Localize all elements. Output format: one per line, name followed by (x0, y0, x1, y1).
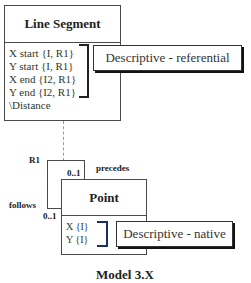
attribute: \Distance (9, 99, 76, 112)
figure-caption: Model 3.X (96, 267, 154, 283)
class-title: Point (62, 180, 146, 216)
class-title: Line Segment (5, 6, 120, 43)
attribute-bracket (79, 44, 89, 98)
attribute: X end {I2, R1} (9, 73, 76, 86)
association-class-link (63, 121, 64, 161)
verb-phrase-precedes: precedes (96, 163, 129, 173)
note-descriptive-native: Descriptive - native (116, 221, 233, 247)
multiplicity-label: 0..1 (43, 211, 57, 221)
relationship-id: R1 (29, 155, 40, 165)
attribute: Y start {I, R1} (9, 60, 76, 73)
note-descriptive-referential: Descriptive - referential (93, 45, 242, 71)
attribute: Y end {I2, R1} (9, 86, 76, 99)
attribute-list: X start {I, R1} Y start {I, R1} X end {I… (9, 47, 76, 112)
attribute-bracket (97, 221, 108, 247)
attribute-list: X {I} Y {I} (66, 220, 89, 246)
verb-phrase-follows: follows (9, 200, 36, 210)
multiplicity-label: 0..1 (67, 168, 81, 178)
attribute: Y {I} (66, 233, 89, 246)
attribute: X start {I, R1} (9, 47, 76, 60)
attribute: X {I} (66, 220, 89, 233)
